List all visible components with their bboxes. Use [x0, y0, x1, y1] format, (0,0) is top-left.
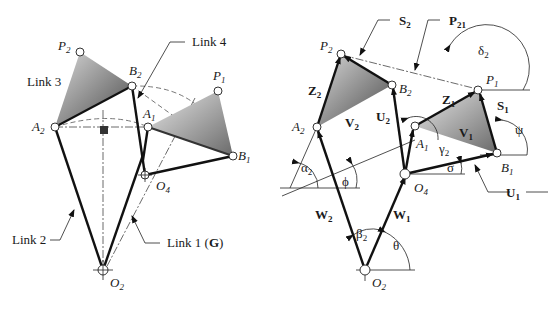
linkage-diagram: Link 4 Link 3 Link 2 Link 1 (G) P2 B2 A2…	[0, 0, 548, 310]
vector-w2	[318, 131, 365, 270]
label-a1: A1	[415, 136, 428, 153]
pin-p1	[214, 87, 222, 95]
arc-phi	[352, 164, 357, 188]
label-p21: P21	[449, 13, 466, 30]
arc-b	[132, 86, 200, 108]
link4-pos2	[132, 86, 145, 175]
label-a1: A1	[142, 106, 155, 123]
label-link4: Link 4	[192, 34, 227, 49]
pin-p2	[337, 50, 345, 58]
pin-a1	[144, 123, 152, 131]
pin-b2	[388, 81, 396, 89]
label-u1: U1	[506, 185, 520, 202]
link2-pos1	[103, 155, 143, 270]
pin-b1	[493, 149, 501, 157]
label-beta2: β2	[356, 226, 367, 243]
pin-a1	[411, 122, 419, 130]
label-b1: B1	[238, 148, 250, 165]
vector-v-a1	[405, 130, 413, 174]
label-p1: P1	[485, 72, 498, 89]
leader-s2	[360, 20, 390, 55]
label-u2: U2	[376, 109, 390, 126]
ground-pivot-o4	[400, 169, 410, 179]
label-o4: O4	[156, 178, 170, 195]
leader-p21	[415, 20, 440, 70]
label-theta: θ	[393, 238, 399, 253]
label-phi: ϕ	[342, 174, 349, 189]
leader-link4	[138, 42, 185, 98]
pin-b2	[128, 82, 136, 90]
label-link3: Link 3	[27, 74, 61, 89]
line-alpha	[290, 127, 317, 188]
link2-upper	[143, 127, 148, 160]
label-p1: P1	[212, 68, 225, 85]
label-o4: O4	[414, 180, 428, 197]
label-o2: O2	[372, 275, 386, 292]
label-b2: B2	[399, 81, 412, 98]
right-figure: S2 P21 Z2 V2 U2 Z1 S1 V1 U1 W2 W1 δ2 ψ γ…	[280, 13, 548, 292]
ground-pivot-o2	[360, 265, 370, 275]
pin-b1	[229, 152, 237, 160]
label-p2: P2	[319, 38, 333, 55]
leader-link1	[132, 216, 160, 243]
left-figure: Link 4 Link 3 Link 2 Link 1 (G) P2 B2 A2…	[12, 34, 250, 292]
link2-pos2	[55, 127, 103, 270]
perp-marker-a	[100, 126, 108, 134]
label-z2: Z2	[308, 83, 322, 100]
label-b2: B2	[129, 63, 142, 80]
pin-a2	[51, 123, 59, 131]
coupler-position1	[148, 91, 233, 156]
label-a2: A2	[31, 119, 45, 136]
label-delta2: δ2	[478, 43, 489, 60]
pin-p2	[76, 48, 84, 56]
vector-u2	[393, 88, 405, 174]
pin-p1	[474, 86, 482, 94]
label-link2: Link 2	[12, 232, 46, 247]
label-z1: Z1	[442, 92, 456, 109]
label-sigma: σ	[447, 160, 454, 175]
label-s1: S1	[497, 98, 509, 115]
pin-a2	[313, 123, 321, 131]
label-s2: S2	[399, 13, 411, 30]
vector-w1	[365, 177, 405, 270]
label-w1: W1	[393, 207, 411, 224]
leader-link2	[50, 210, 74, 240]
label-alpha2: α2	[301, 160, 312, 177]
label-o2: O2	[110, 275, 124, 292]
label-link1: Link 1 (G)	[167, 235, 223, 250]
link4-pos1	[145, 156, 233, 175]
label-b1: B1	[501, 160, 513, 177]
label-gamma2: γ2	[438, 141, 449, 158]
label-a2: A2	[291, 119, 305, 136]
label-p2: P2	[57, 38, 71, 55]
label-psi: ψ	[515, 122, 523, 137]
label-v2: V2	[345, 115, 359, 132]
coupler-link3	[55, 52, 132, 127]
label-w2: W2	[315, 207, 333, 224]
arc-sigma	[461, 163, 462, 174]
